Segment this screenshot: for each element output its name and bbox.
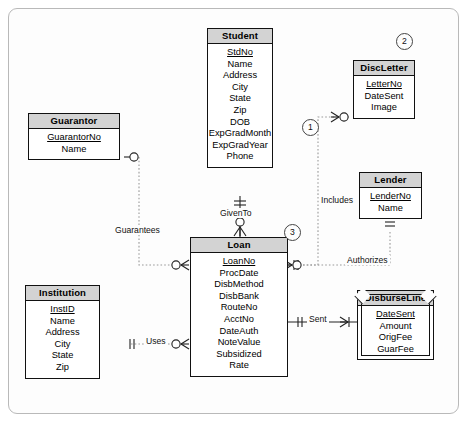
attribute: NoteValue (191, 337, 287, 349)
annotation-marker-2: 2 (396, 33, 413, 50)
attribute: ExpGradMonth (208, 128, 272, 140)
attribute: DateSent (358, 309, 433, 321)
entity-lender-attributes: LenderNo Name (360, 188, 421, 218)
entity-student-title: Student (208, 29, 272, 44)
attribute: State (208, 93, 272, 105)
annotation-marker-3: 3 (284, 224, 301, 241)
attribute: Phone (208, 151, 272, 163)
entity-lender-title: Lender (360, 173, 421, 188)
attribute: Rate (191, 360, 287, 372)
attribute: DOB (208, 117, 272, 129)
relationship-label-authorizes: Authorizes (345, 255, 390, 265)
attribute: Name (26, 316, 99, 328)
attribute: LoanNo (191, 256, 287, 268)
entity-loan-title: Loan (191, 238, 287, 253)
attribute: Name (208, 59, 272, 71)
connector-guarantees (124, 153, 189, 270)
attribute: ProcDate (191, 268, 287, 280)
attribute: Zip (26, 362, 99, 374)
entity-guarantor-title: Guarantor (29, 114, 119, 129)
entity-loan-attributes: LoanNo ProcDate DisbMethod DisbBank Rout… (191, 253, 287, 376)
relationship-label-giventto: GivenTo (218, 208, 254, 218)
relationship-label-sent: Sent (307, 314, 329, 324)
attribute: DateAuth (191, 326, 287, 338)
attribute: Image (354, 102, 414, 114)
attribute: DateSent (354, 91, 414, 103)
attribute: State (26, 350, 99, 362)
entity-loan[interactable]: Loan LoanNo ProcDate DisbMethod DisbBank… (190, 237, 288, 377)
attribute: City (208, 82, 272, 94)
entity-student[interactable]: Student StdNo Name Address City State Zi… (207, 28, 273, 168)
entity-discletter[interactable]: DiscLetter LetterNo DateSent Image (353, 60, 415, 119)
entity-discletter-title: DiscLetter (354, 61, 414, 76)
attribute: OrigFee (358, 332, 433, 344)
entity-disburseline-title: DisburseLine (358, 291, 433, 306)
entity-institution[interactable]: Institution InstID Name Address City Sta… (25, 285, 100, 379)
attribute: LenderNo (360, 191, 421, 203)
attribute: RouteNo (191, 302, 287, 314)
relationship-label-uses: Uses (144, 336, 168, 346)
entity-institution-title: Institution (26, 286, 99, 301)
connector-includes (288, 112, 349, 270)
attribute: Name (360, 203, 421, 215)
attribute: Amount (358, 321, 433, 333)
attribute: ExpGradYear (208, 140, 272, 152)
attribute: StdNo (208, 47, 272, 59)
attribute: GuarFee (358, 344, 433, 356)
attribute: Zip (208, 105, 272, 117)
attribute: DisbBank (191, 291, 287, 303)
entity-guarantor-attributes: GuarantorNo Name (29, 129, 119, 159)
er-diagram-canvas: Student StdNo Name Address City State Zi… (0, 0, 469, 424)
annotation-marker-1: 1 (302, 119, 319, 136)
entity-student-attributes: StdNo Name Address City State Zip DOB Ex… (208, 44, 272, 167)
attribute: LetterNo (354, 79, 414, 91)
attribute: Address (26, 327, 99, 339)
relationship-label-guarantees: Guarantees (113, 225, 162, 235)
attribute: Address (208, 70, 272, 82)
attribute: GuarantorNo (29, 132, 119, 144)
entity-discletter-attributes: LetterNo DateSent Image (354, 76, 414, 118)
attribute: InstID (26, 304, 99, 316)
entity-guarantor[interactable]: Guarantor GuarantorNo Name (28, 113, 120, 160)
entity-lender[interactable]: Lender LenderNo Name (359, 172, 422, 219)
entity-institution-attributes: InstID Name Address City State Zip (26, 301, 99, 378)
attribute: Subsidized (191, 349, 287, 361)
attribute: AcctNo (191, 314, 287, 326)
entity-disburseline-attributes: DateSent Amount OrigFee GuarFee (358, 306, 433, 359)
attribute: DisbMethod (191, 279, 287, 291)
relationship-label-includes: Includes (319, 195, 355, 205)
attribute: Name (29, 144, 119, 156)
entity-disburseline[interactable]: DisburseLine DateSent Amount OrigFee Gua… (357, 290, 434, 360)
attribute: City (26, 339, 99, 351)
